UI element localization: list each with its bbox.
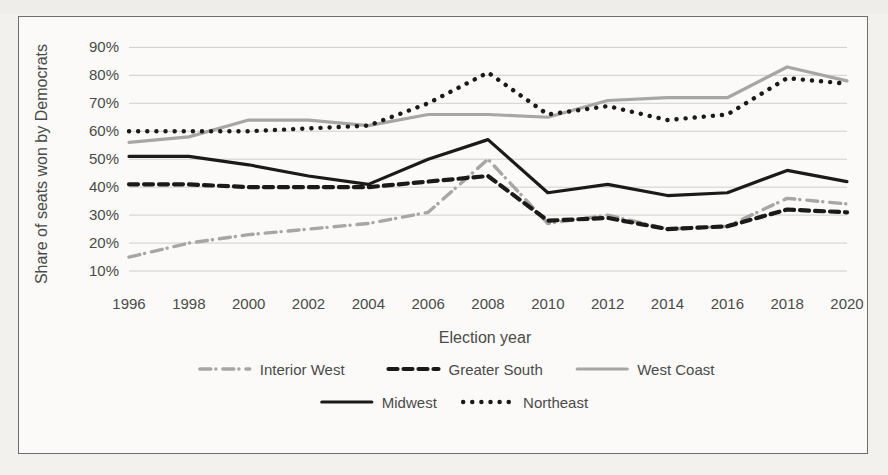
chart-plot-wrapper: 10%20%30%40%50%60%70%80%90% 199619982000…	[19, 17, 869, 455]
legend-label-midwest: Midwest	[382, 394, 438, 411]
scan-noise-band	[0, 0, 888, 14]
line-chart: 10%20%30%40%50%60%70%80%90% 199619982000…	[19, 17, 869, 455]
y-tick-label: 40%	[89, 178, 119, 195]
series-line-interior-west	[129, 159, 847, 257]
chart-legend: Interior WestGreater SouthWest CoastMidw…	[200, 361, 715, 411]
x-tick-label: 2012	[591, 295, 624, 312]
x-tick-label: 2000	[232, 295, 265, 312]
x-axis-tick-labels: 1996199820002002200420062008201020122014…	[112, 295, 863, 312]
legend-label-greater-south: Greater South	[449, 361, 543, 378]
y-tick-label: 80%	[89, 66, 119, 83]
legend-label-interior-west: Interior West	[260, 361, 346, 378]
series-line-greater-south	[129, 176, 847, 229]
x-tick-label: 2006	[411, 295, 444, 312]
y-tick-label: 70%	[89, 94, 119, 111]
y-tick-label: 30%	[89, 206, 119, 223]
y-tick-label: 90%	[89, 38, 119, 55]
legend-label-northeast: Northeast	[523, 394, 589, 411]
y-tick-label: 50%	[89, 150, 119, 167]
y-tick-label: 20%	[89, 234, 119, 251]
x-tick-label: 2014	[651, 295, 684, 312]
x-tick-label: 2010	[531, 295, 564, 312]
y-tick-label: 60%	[89, 122, 119, 139]
x-tick-label: 2004	[352, 295, 385, 312]
x-tick-label: 2008	[471, 295, 504, 312]
y-axis-tick-labels: 10%20%30%40%50%60%70%80%90%	[89, 38, 119, 279]
legend-label-west-coast: West Coast	[637, 361, 715, 378]
x-tick-label: 2018	[770, 295, 803, 312]
chart-figure-frame: 10%20%30%40%50%60%70%80%90% 199619982000…	[18, 16, 868, 454]
x-tick-label: 1998	[172, 295, 205, 312]
y-axis-title: Share of seats won by Democrats	[33, 44, 50, 284]
data-series-group	[129, 67, 847, 257]
x-axis-title: Election year	[439, 329, 532, 346]
x-tick-label: 2002	[292, 295, 325, 312]
x-tick-label: 1996	[112, 295, 145, 312]
x-tick-label: 2016	[711, 295, 744, 312]
x-tick-label: 2020	[830, 295, 863, 312]
y-tick-label: 10%	[89, 262, 119, 279]
